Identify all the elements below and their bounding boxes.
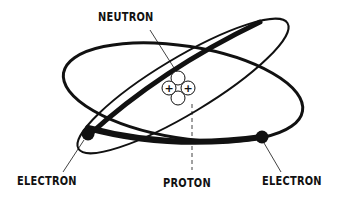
- electron-right-leader: [264, 143, 281, 172]
- atom-diagram: + +: [0, 0, 342, 200]
- proton-label: PROTON: [163, 176, 211, 190]
- plus-icon: +: [183, 82, 192, 95]
- electron-left: [82, 128, 95, 141]
- electron-left-leader: [63, 140, 84, 172]
- plus-icon: +: [164, 82, 173, 95]
- electron-left-label: ELECTRON: [17, 174, 77, 188]
- electron-right: [256, 131, 269, 144]
- neutron-label: NEUTRON: [98, 10, 154, 24]
- electron-right-label: ELECTRON: [262, 174, 322, 188]
